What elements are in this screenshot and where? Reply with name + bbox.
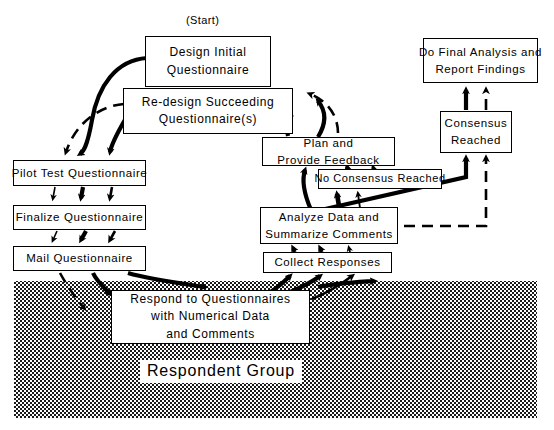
node-plan-and-provide-feedback: Plan andProvide Feedback — [262, 137, 395, 166]
node-label-line: Consensus — [445, 115, 508, 132]
node-label-line: Questionnaire(s) — [159, 111, 257, 128]
node-label-line: Re-design Succeeding — [142, 94, 275, 111]
node-label-line: No Consensus Reached — [314, 171, 445, 187]
node-label-line: Plan and — [303, 135, 353, 152]
node-label-line: Reached — [451, 132, 501, 149]
edge-pilot-to-finalize — [53, 187, 112, 198]
node-label-line: Finalize Questionnaire — [16, 209, 144, 226]
node-finalize-questionnaire: Finalize Questionnaire — [13, 205, 146, 230]
node-label-line: Provide Feedback — [277, 152, 379, 169]
node-label-line: and Comments — [166, 326, 255, 343]
node-no-consensus-reached: No Consensus Reached — [318, 169, 442, 189]
node-design-initial-questionnaire: Design InitialQuestionnaire — [145, 36, 271, 87]
edge-plan-to-redesign — [287, 94, 338, 137]
node-label-line: Design Initial — [169, 44, 246, 61]
edge-consensus-to-final — [466, 90, 486, 110]
node-label-line: with Numerical Data — [151, 308, 270, 325]
node-respond-to-questionnaires: Respond to Questionnaireswith Numerical … — [111, 290, 310, 344]
delphi-flow-diagram: (Start) Respondent Group Design InitialQ… — [0, 0, 554, 430]
start-label: (Start) — [186, 14, 219, 26]
node-label-line: Mail Questionnaire — [26, 250, 133, 267]
edge-finalize-to-mail — [53, 231, 115, 240]
node-label-line: Questionnaire — [167, 62, 250, 79]
node-analyze-data-summarize-comments: Analyze Data andSummarize Comments — [260, 207, 398, 244]
node-label-line: Pilot Test Questionnaire — [12, 165, 148, 182]
node-label-line: Collect Responses — [274, 254, 380, 271]
node-label-line: Analyze Data and — [279, 209, 379, 226]
node-collect-responses: Collect Responses — [263, 252, 392, 273]
node-label-line: Summarize Comments — [265, 226, 393, 243]
node-label-line: Respond to Questionnaires — [130, 291, 290, 308]
node-label-line: Report Findings — [435, 61, 525, 78]
edge-analyze-to-plan — [303, 170, 311, 210]
node-pilot-test-questionnaire: Pilot Test Questionnaire — [13, 160, 146, 186]
node-label-line: Do Final Analysis and — [419, 44, 542, 61]
node-re-design-succeeding-questionnaires: Re-design SucceedingQuestionnaire(s) — [123, 88, 293, 134]
node-do-final-analysis-report-findings: Do Final Analysis andReport Findings — [423, 38, 538, 83]
node-mail-questionnaire: Mail Questionnaire — [13, 246, 146, 271]
respondent-group-label: Respondent Group — [140, 360, 302, 383]
node-consensus-reached: ConsensusReached — [440, 111, 512, 153]
